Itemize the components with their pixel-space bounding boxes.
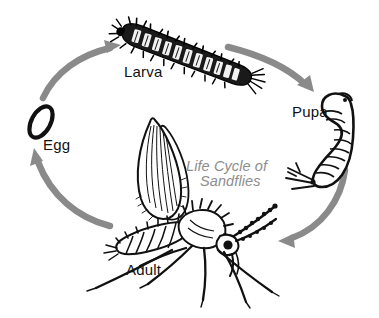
diagram-title: Life Cycle of Sandflies bbox=[186, 143, 301, 206]
diagram-title-line-2: Sandflies bbox=[186, 174, 301, 190]
life-cycle-diagram: Larva Egg Pupa Adult Life Cycle of Sandf… bbox=[0, 0, 379, 318]
diagram-title-line-1: Life Cycle of bbox=[186, 158, 267, 174]
stage-label-egg: Egg bbox=[43, 137, 70, 152]
stage-label-adult: Adult bbox=[126, 262, 161, 277]
arrow-egg-to-larva bbox=[43, 40, 121, 98]
stage-label-larva: Larva bbox=[124, 64, 163, 79]
stage-label-pupa: Pupa bbox=[292, 104, 328, 119]
arrow-adult-to-egg bbox=[30, 148, 110, 226]
